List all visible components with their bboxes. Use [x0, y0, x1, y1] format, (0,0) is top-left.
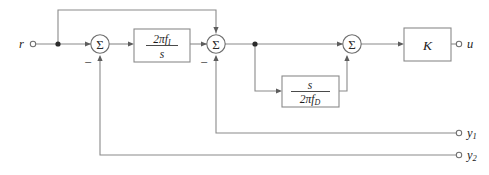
gain-block: K [404, 28, 451, 61]
arrowhead-sum1-in-bottom [97, 55, 102, 61]
arrowhead-sum2-in-left [201, 41, 207, 46]
derivative-denominator-subscript: D [313, 97, 320, 106]
sum1-minus-sign: − [84, 55, 91, 70]
summing-junction-sum1: Σ − [84, 35, 109, 70]
u-output-terminal [456, 41, 461, 46]
arrowhead-integrator-in [128, 41, 134, 46]
terminal-layer [30, 41, 461, 157]
summing-junction-sum3: Σ [343, 35, 361, 53]
sum1-sigma-label: Σ [96, 37, 104, 52]
wire-layer [36, 10, 456, 155]
y1-output-label: y1 [465, 126, 477, 141]
arrowhead-derivative-in [276, 88, 282, 93]
y2-label-subscript: 2 [473, 153, 478, 163]
integrator-numerator-subscript: I [167, 37, 171, 46]
r-input-label: r [19, 37, 24, 51]
r-input-terminal [30, 41, 35, 46]
arrowhead-sum2-in-top [213, 27, 218, 33]
derivative-numerator: s [308, 79, 313, 91]
integrator-denominator: s [160, 48, 165, 60]
sum2-minus-sign: − [200, 55, 207, 70]
y1-output-terminal [456, 130, 461, 135]
u-output-label: u [467, 37, 473, 51]
arrowhead-gain-in [398, 41, 404, 46]
junction-dot-r-branch [55, 41, 60, 46]
wire-derivative-to-sum3 [339, 57, 347, 91]
arrowhead-sum3-in-left [337, 41, 343, 46]
y1-label-subscript: 1 [473, 131, 477, 141]
arrowhead-sum3-in-bottom [344, 55, 349, 61]
sum2-sigma-label: Σ [212, 37, 220, 52]
derivative-block: s 2πfD [282, 76, 339, 107]
block-diagram-canvas: Σ − Σ − Σ 2πfI s s 2πfD [0, 0, 489, 175]
integrator-block: 2πfI s [134, 29, 190, 62]
wire-y2-feedback [100, 57, 456, 155]
summing-junction-sum2: Σ − [200, 35, 225, 70]
arrowhead-sum1-in [85, 41, 91, 46]
arrowhead-sum2-in-bottom [213, 55, 218, 61]
junction-dot-mid-branch [252, 41, 257, 46]
sum3-sigma-label: Σ [348, 37, 356, 52]
gain-block-label: K [422, 38, 433, 53]
y2-output-terminal [456, 152, 461, 157]
y2-output-label: y2 [465, 148, 478, 163]
control-block-diagram: Σ − Σ − Σ 2πfI s s 2πfD [0, 0, 489, 175]
wire-branch-to-derivative [255, 44, 279, 91]
